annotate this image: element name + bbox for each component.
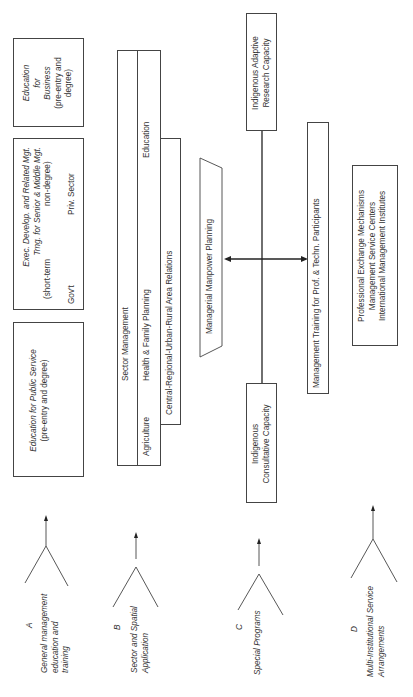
text-line: Trng. for Senior & Middle Mgt. [33,147,44,297]
text-line: Education for Public Service [29,338,40,463]
sector-agriculture: Agriculture [142,417,153,456]
category-c-letter: C [235,624,246,630]
text-line: Research Capacity [262,21,273,125]
relations-text: Central-Regional-Urban-Rural Area Relati… [165,251,176,415]
category-b-letter: B [113,625,124,630]
priv-sector-label: Priv. Sector [67,173,78,215]
adaptive-research-text: Indigenous Adaptive Research Capacity [251,21,272,125]
govt-label: Gov't [67,285,78,304]
text-line: Sector and Spatial [130,606,141,673]
category-a-letter: A [25,623,36,628]
non-degree-label: non-degree) [43,161,54,206]
category-c-label: Special Programs [253,610,264,675]
management-training-text: Management Training for Prof. & Techn. P… [312,198,323,388]
professional-exchange-text: Professional Exchange Mechanisms Managem… [357,174,389,338]
education-public-text: Education for Public Service (pre-entry … [29,338,50,463]
text-line: Special Programs [253,610,264,675]
category-a-label: General management education and trainin… [40,594,72,673]
manpower-planning-label: Managerial Manpower Planning [205,219,216,334]
exec-develop-title: Exec. Develop. and Related Mgt. Trng. fo… [22,147,43,297]
text-line: Consultative Capacity [262,391,273,497]
category-c-arrow [238,538,283,615]
text-line: (pre-entry and degree) [40,338,51,463]
category-b-arrow [113,532,158,607]
text-line: Multi-Institutional Service [366,586,377,677]
text-line: Application [141,606,152,673]
exec-develop-box: Exec. Develop. and Related Mgt. Trng. fo… [13,138,84,310]
text-line: Professional Exchange Mechanisms [357,174,368,338]
sector-divider [137,51,138,465]
text-line: (pre-entry and [54,45,65,121]
category-d-arrow [351,505,397,582]
category-b-label: Sector and Spatial Application [130,606,151,673]
text-line: International Management Institutes [378,174,389,338]
text-line: Indigenous [251,391,262,497]
sector-health: Health & Family Planning [142,289,153,381]
text-line: education and [51,594,62,673]
sector-education: Education [142,122,153,158]
text-line: for [33,45,44,121]
professional-exchange-box: Professional Exchange Mechanisms Managem… [352,165,398,346]
text-line: degree) [64,45,75,121]
category-d-label: Multi-Institutional Service Arrangements [366,586,387,677]
text-line: training [61,594,72,673]
sector-management-table: Sector Management Agriculture Health & F… [117,50,161,466]
text-line: Management Service Centers [368,174,379,338]
arrowhead-left [224,256,231,262]
relations-box: Central-Regional-Urban-Rural Area Relati… [160,138,181,425]
text-line: Arrangements [377,586,388,677]
adaptive-research-box: Indigenous Adaptive Research Capacity [246,13,277,131]
text-line: Exec. Develop. and Related Mgt. [22,147,33,297]
text-line: General management [40,594,51,673]
text-line: Indigenous Adaptive [251,21,262,125]
management-training-box: Management Training for Prof. & Techn. P… [307,122,329,394]
text-line: Education [22,45,33,121]
sector-management-title: Sector Management [121,307,132,381]
education-business-text: Education for Business (pre-entry and de… [22,45,75,121]
consultative-capacity-text: Indigenous Consultative Capacity [251,391,272,497]
education-public-box: Education for Public Service (pre-entry … [13,322,84,477]
education-business-box: Education for Business (pre-entry and de… [13,38,84,127]
category-a-arrow [25,515,68,586]
short-term-label: (short-term [43,259,54,299]
consultative-capacity-box: Indigenous Consultative Capacity [246,383,277,503]
text-line: Business [43,45,54,121]
category-d-letter: D [350,626,361,632]
